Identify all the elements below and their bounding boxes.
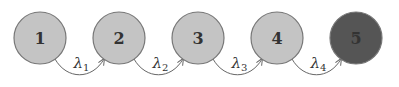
edge-rate-label: λ1: [73, 54, 90, 73]
edge-rate-label: λ2: [152, 54, 169, 73]
node-1: 1: [14, 12, 66, 64]
node-5: 5: [330, 12, 382, 64]
edge-rate-label: λ3: [231, 54, 248, 73]
edge-rate-label: λ4: [310, 54, 327, 73]
node-label: 4: [271, 29, 282, 48]
node-label: 1: [34, 29, 45, 48]
node-label: 3: [192, 29, 203, 48]
markov-chain-diagram: λ1λ2λ3λ4 12345: [0, 0, 399, 87]
node-3: 3: [172, 12, 224, 64]
node-label: 5: [350, 29, 361, 48]
node-label: 2: [113, 29, 124, 48]
node-4: 4: [251, 12, 303, 64]
node-2: 2: [93, 12, 145, 64]
